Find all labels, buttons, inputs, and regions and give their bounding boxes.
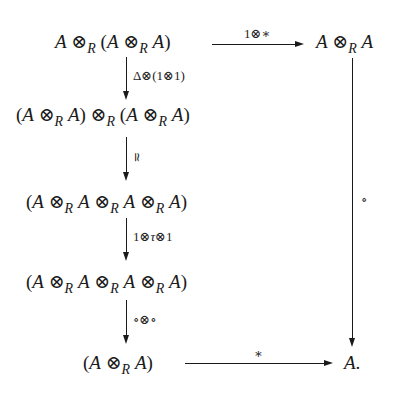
- subscript-r: R: [139, 41, 148, 56]
- arrow-bottom-head: [324, 360, 333, 366]
- arrow-left2-shaft: [126, 137, 127, 173]
- tensor-symbol: ⊗: [119, 31, 140, 52]
- arrow-top-label: 1⊗∗: [244, 27, 270, 40]
- tensor-symbol: ⊗: [328, 31, 349, 52]
- tensor-symbol: ⊗: [90, 191, 111, 212]
- paren-close: ): [181, 271, 187, 292]
- node-top-right: A ⊗R A: [316, 32, 373, 51]
- symbol-a: A: [316, 31, 328, 52]
- arrow-left4-head: [123, 335, 129, 344]
- node-top-left: A ⊗R (A ⊗R A): [55, 32, 170, 51]
- tensor-symbol: ) ⊗: [80, 104, 107, 125]
- arrow-right-label: ∘: [361, 193, 367, 206]
- arrow-left3-shaft: [126, 218, 127, 253]
- tensor-symbol: ⊗: [135, 271, 156, 292]
- arrow-left3-head: [123, 252, 129, 261]
- label-part: 1⊗: [133, 229, 150, 244]
- paren-close: ): [164, 31, 170, 52]
- symbol-a: A: [344, 352, 356, 373]
- paren-close: ): [183, 104, 189, 125]
- arrow-right-head: [349, 338, 355, 347]
- subscript-r: R: [158, 114, 167, 129]
- arrow-left2-label: ≃: [132, 151, 143, 164]
- subscript-r: R: [107, 114, 116, 129]
- paren-open: (: [115, 104, 126, 125]
- node-bottom-left: (A ⊗R A): [83, 353, 153, 372]
- symbol-a: A: [169, 271, 181, 292]
- symbol-a: A: [135, 352, 147, 373]
- symbol-a: A: [153, 31, 165, 52]
- paren-close: ): [147, 352, 153, 373]
- subscript-r: R: [110, 201, 119, 216]
- arrow-right-shaft: [352, 58, 353, 339]
- arrow-left4-shaft: [126, 300, 127, 336]
- symbol-a: A: [32, 271, 44, 292]
- arrow-left3-label: 1⊗τ⊗1: [133, 230, 172, 243]
- period: .: [356, 352, 361, 373]
- node-row2: (A ⊗R A) ⊗R (A ⊗R A): [16, 105, 190, 124]
- subscript-r: R: [87, 41, 96, 56]
- tensor-symbol: ⊗: [67, 31, 88, 52]
- symbol-a: A: [89, 352, 101, 373]
- arrow-left1-head: [123, 91, 129, 100]
- symbol-a: A: [68, 104, 80, 125]
- tensor-symbol: ⊗: [101, 352, 122, 373]
- isomorphism-symbol: ≃: [131, 152, 144, 163]
- node-bottom-right: A.: [344, 353, 360, 372]
- paren-close: ): [181, 191, 187, 212]
- subscript-r: R: [65, 281, 74, 296]
- subscript-r: R: [55, 114, 64, 129]
- symbol-a: A: [362, 31, 374, 52]
- symbol-a: A: [107, 31, 119, 52]
- tensor-symbol: ⊗: [34, 104, 55, 125]
- symbol-a: A: [124, 271, 136, 292]
- label-part: ⊗1: [155, 229, 172, 244]
- arrow-top-shaft: [212, 44, 296, 45]
- paren-open: (: [96, 31, 107, 52]
- subscript-r: R: [348, 41, 357, 56]
- node-row3: (A ⊗R A ⊗R A ⊗R A): [26, 192, 187, 211]
- tensor-symbol: ⊗: [44, 271, 65, 292]
- arrow-bottom-shaft: [185, 363, 325, 364]
- symbol-a: A: [32, 191, 44, 212]
- symbol-a: A: [169, 191, 181, 212]
- tensor-symbol: ⊗: [90, 271, 111, 292]
- symbol-a: A: [55, 31, 67, 52]
- node-row4: (A ⊗R A ⊗R A ⊗R A): [26, 272, 187, 291]
- subscript-r: R: [122, 362, 131, 377]
- arrow-left1-label: Δ⊗(1⊗1): [133, 69, 185, 82]
- symbol-a: A: [172, 104, 184, 125]
- symbol-a: A: [78, 271, 90, 292]
- tensor-symbol: ⊗: [138, 104, 159, 125]
- symbol-a: A: [22, 104, 34, 125]
- arrow-left4-label: ∘⊗∘: [133, 313, 157, 326]
- subscript-r: R: [65, 201, 74, 216]
- symbol-a: A: [124, 191, 136, 212]
- symbol-a: A: [126, 104, 138, 125]
- tensor-symbol: ⊗: [135, 191, 156, 212]
- subscript-r: R: [110, 281, 119, 296]
- tensor-symbol: ⊗: [44, 191, 65, 212]
- arrow-left1-shaft: [126, 57, 127, 92]
- arrow-bottom-label: ∗: [254, 347, 263, 360]
- arrow-left2-head: [123, 172, 129, 181]
- symbol-a: A: [78, 191, 90, 212]
- arrow-top-head: [295, 41, 304, 47]
